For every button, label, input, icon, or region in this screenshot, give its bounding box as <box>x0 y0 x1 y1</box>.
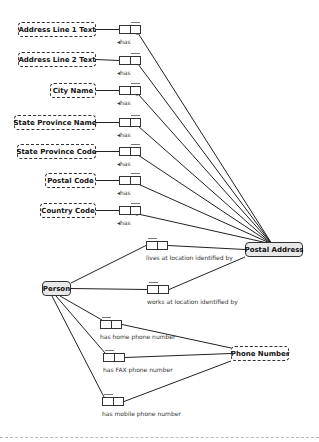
reading-label: ◂has <box>117 219 131 226</box>
uniqueness-constraint <box>105 350 114 351</box>
fact-type-role-box[interactable] <box>119 206 141 215</box>
entity-person[interactable]: Person <box>42 281 71 296</box>
uniqueness-constraint <box>102 317 111 318</box>
page-divider <box>0 437 319 438</box>
fact-type-role-box-home-phone[interactable] <box>100 320 122 329</box>
fact-type-role-box-mobile-phone[interactable] <box>102 397 124 406</box>
reading-label: ◂has <box>117 131 131 138</box>
uniqueness-constraint <box>131 173 140 174</box>
reading-label: ◂has <box>117 38 131 45</box>
reading-label: ◂has <box>117 189 131 196</box>
value-type-address-line-1-text[interactable]: Address Line 1 Text <box>18 22 96 37</box>
fact-type-role-box[interactable] <box>119 56 141 65</box>
reading-label-fax-phone: has FAX phone number <box>103 366 173 373</box>
reading-label-lives-at: lives at location identified by <box>146 254 233 261</box>
value-type-city-name[interactable]: City Name <box>50 83 96 98</box>
uniqueness-constraint <box>131 53 140 54</box>
fact-type-role-box-works-at[interactable] <box>147 285 169 294</box>
reading-label-mobile-phone: has mobile phone number <box>102 410 181 417</box>
uniqueness-constraint <box>131 203 140 204</box>
entity-postal-address[interactable]: Postal Address <box>245 242 303 257</box>
fact-type-role-box[interactable] <box>119 86 141 95</box>
orm-diagram: Address Line 1 Text Address Line 2 Text … <box>0 0 319 442</box>
fact-type-role-box[interactable] <box>119 147 141 156</box>
value-type-address-line-2-text[interactable]: Address Line 2 Text <box>18 52 96 67</box>
reading-label-home-phone: has home phone number <box>100 333 176 340</box>
value-type-state-province-name[interactable]: State Province Name <box>14 115 96 130</box>
value-type-postal-code[interactable]: Postal Code <box>45 173 96 188</box>
uniqueness-constraint <box>131 22 140 23</box>
uniqueness-constraint <box>104 394 113 395</box>
fact-type-role-box-fax-phone[interactable] <box>103 353 125 362</box>
reading-label: ◂has <box>117 99 131 106</box>
uniqueness-constraint <box>131 144 140 145</box>
fact-type-role-box[interactable] <box>119 118 141 127</box>
reading-label-works-at: works at location identified by <box>147 298 238 305</box>
uniqueness-constraint <box>148 238 157 239</box>
uniqueness-constraint <box>131 115 140 116</box>
uniqueness-constraint <box>149 282 158 283</box>
fact-type-role-box[interactable] <box>119 176 141 185</box>
reading-label: ◂has <box>117 69 131 76</box>
value-type-country-code[interactable]: Country Code <box>40 203 96 218</box>
reading-label: ◂has <box>117 160 131 167</box>
value-type-phone-number[interactable]: Phone Number <box>231 346 289 361</box>
fact-type-role-box[interactable] <box>119 25 141 34</box>
fact-type-role-box-lives-at[interactable] <box>146 241 168 250</box>
value-type-state-province-code[interactable]: State Province Code <box>17 144 96 159</box>
uniqueness-constraint <box>131 83 140 84</box>
